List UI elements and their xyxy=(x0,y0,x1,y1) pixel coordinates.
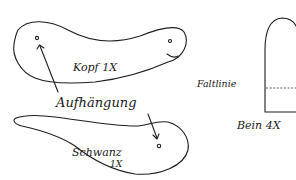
arrow-to-head-hole xyxy=(40,46,58,92)
leg-piece: Faltlinie Bein 4X xyxy=(196,18,296,132)
pattern-sheet: Kopf 1X Aufhängung Schwanz 1X Faltlinie … xyxy=(0,0,296,180)
mouth-icon xyxy=(167,54,178,57)
hanging-annotation: Aufhängung xyxy=(37,45,159,139)
hanging-label: Aufhängung xyxy=(55,95,136,110)
eye-icon xyxy=(169,40,172,43)
arrow-to-tail-hole xyxy=(148,114,157,138)
tail-label-line2: 1X xyxy=(110,159,123,169)
head-piece: Kopf 1X xyxy=(14,22,187,83)
head-label: Kopf 1X xyxy=(72,61,118,74)
tail-piece: Schwanz 1X xyxy=(14,116,188,175)
leg-label: Bein 4X xyxy=(236,119,282,132)
head-hanging-hole-icon xyxy=(35,36,38,39)
leg-outline xyxy=(265,18,296,112)
tail-hanging-hole-icon xyxy=(157,144,160,147)
fold-line-label: Faltlinie xyxy=(196,78,237,89)
tail-outline xyxy=(14,116,188,175)
tail-label-line1: Schwanz xyxy=(72,146,122,159)
